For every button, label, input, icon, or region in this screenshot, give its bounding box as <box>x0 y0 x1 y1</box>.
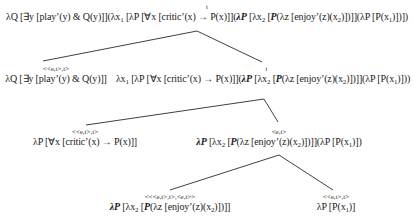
node-enjoy-functor: <<<e,t>,t>,<e,t>> λP [λx2 [P(λz [enjoy’(… <box>90 193 250 212</box>
node-type: <e,t> <box>190 128 368 136</box>
node-expression: λQ [∃y [play’(y) & Q(y)]] <box>0 73 112 84</box>
node-type: t <box>0 3 414 11</box>
tree-edge <box>86 99 264 125</box>
node-type: <<<e,t>,t>,<e,t>> <box>90 193 250 201</box>
tree-edge <box>197 31 262 62</box>
tree-edge <box>264 99 278 122</box>
node-expression: λx1 [λP [∀x [critic’(x) → P(x)]](λP [λx2… <box>112 73 414 84</box>
node-type: <<e,t>,t> <box>25 128 145 136</box>
node-type: <<e,t>,t> <box>306 193 366 201</box>
tree-edge <box>43 31 197 61</box>
node-expression: λP [λx2 [P(λz [enjoy’(z)(x2)])]](λP [P(x… <box>190 136 368 147</box>
node-expression: λQ [∃y [play’(y) & Q(y)]](λx1 [λP [∀x [c… <box>0 11 414 22</box>
node-expression: λP [λx2 [P(λz [enjoy’(z)(x2)])]] <box>90 201 250 212</box>
node-expression: λP [∀x [critic’(x) → P(x)]] <box>25 136 145 147</box>
node-subject-quantifier: <<e,t>,t> λQ [∃y [play’(y) & Q(y)]] <box>0 65 112 84</box>
tree-edges <box>0 0 414 216</box>
node-type: <<e,t>,t> <box>0 65 112 73</box>
node-every-critic: <<e,t>,t> λP [∀x [critic’(x) → P(x)]] <box>25 128 145 147</box>
node-type: t <box>112 65 414 73</box>
node-trace-quantifier: <<e,t>,t> λP [P(x1)] <box>306 193 366 212</box>
node-expression: λP [P(x1)] <box>306 201 366 212</box>
node-vp: <e,t> λP [λx2 [P(λz [enjoy’(z)(x2)])]](λ… <box>190 128 368 147</box>
derivation-tree: t λQ [∃y [play’(y) & Q(y)]](λx1 [λP [∀x … <box>0 0 414 216</box>
node-lambda-abstract: t λx1 [λP [∀x [critic’(x) → P(x)]](λP [λ… <box>112 65 414 84</box>
node-root: t λQ [∃y [play’(y) & Q(y)]](λx1 [λP [∀x … <box>0 3 414 22</box>
tree-edge <box>279 155 333 190</box>
tree-edge <box>170 155 279 190</box>
